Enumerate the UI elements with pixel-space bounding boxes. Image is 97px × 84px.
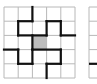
- second-puzzle-grid: [89, 7, 97, 78]
- puzzle-grid: [4, 7, 75, 78]
- shaded-cell: [32, 35, 46, 49]
- puzzle-canvas: [0, 0, 97, 84]
